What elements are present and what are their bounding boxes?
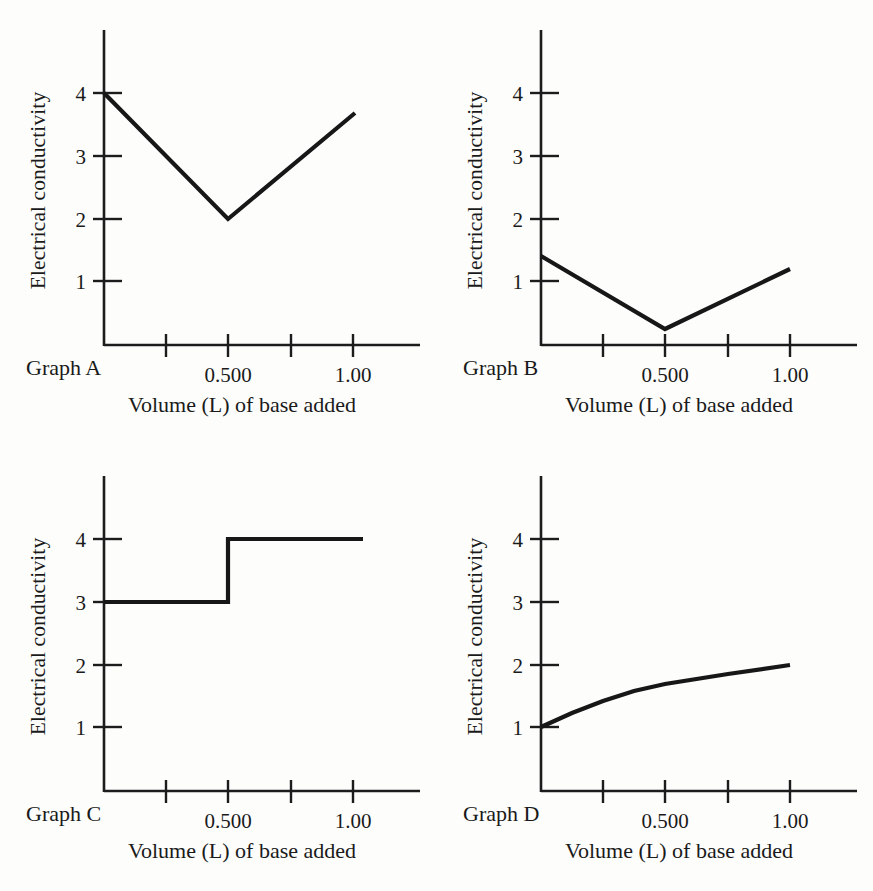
data-series-d (541, 665, 790, 727)
y-tick-label-3-c: 3 (76, 591, 87, 615)
data-series-c (104, 539, 363, 602)
y-axis-title-a: Electrical conductivity (26, 61, 51, 321)
y-ticks-c (93, 539, 122, 727)
y-tick-label-4-c: 4 (76, 528, 87, 552)
graph-panel-c: 4 3 2 1 0.500 1.00 Graph C Volume (L) of… (0, 446, 436, 891)
x-tick-label-half-b: 0.500 (641, 363, 688, 387)
y-tick-label-1-b: 1 (513, 270, 524, 294)
x-axis-title-b: Volume (L) of base added (499, 392, 859, 418)
y-ticks-d (530, 539, 559, 727)
data-series-a (104, 93, 355, 219)
y-axis-title-c: Electrical conductivity (26, 507, 51, 767)
y-tick-label-1-c: 1 (76, 716, 87, 740)
y-axis-title-b: Electrical conductivity (463, 61, 488, 321)
axes-c (104, 476, 420, 792)
y-tick-label-4-b: 4 (513, 82, 524, 106)
y-tick-label-1-a: 1 (76, 270, 87, 294)
axes-d (541, 476, 857, 792)
y-tick-label-2-a: 2 (76, 208, 87, 232)
y-tick-label-3-a: 3 (76, 145, 87, 169)
x-tick-label-half-c: 0.500 (204, 809, 251, 833)
graph-panel-b: 4 3 2 1 0.500 1.00 Graph B Volume (L) of… (437, 0, 873, 445)
graph-caption-c: Graph C (26, 801, 101, 827)
y-tick-label-4-a: 4 (76, 82, 87, 106)
y-axis-title-d: Electrical conductivity (463, 507, 488, 767)
y-ticks-a (93, 93, 122, 281)
graph-caption-b: Graph B (463, 355, 538, 381)
x-axis-title-d: Volume (L) of base added (499, 838, 859, 864)
y-tick-label-1-d: 1 (513, 716, 524, 740)
y-tick-label-3-d: 3 (513, 591, 524, 615)
data-series-b (541, 256, 790, 329)
graph-panel-a: 4 3 2 1 0.500 1.00 Graph A Volume (L) of… (0, 0, 436, 445)
y-tick-label-2-c: 2 (76, 654, 87, 678)
x-tick-label-half-d: 0.500 (641, 809, 688, 833)
axes-b (541, 30, 857, 346)
x-axis-title-c: Volume (L) of base added (62, 838, 422, 864)
y-ticks-b (530, 93, 559, 281)
graph-panel-d: 4 3 2 1 0.500 1.00 Graph D Volume (L) of… (437, 446, 873, 891)
x-tick-label-half-a: 0.500 (204, 363, 251, 387)
x-tick-label-one-d: 1.00 (772, 809, 809, 833)
x-axis-title-a: Volume (L) of base added (62, 392, 422, 418)
figure-four-graphs: 4 3 2 1 0.500 1.00 Graph A Volume (L) of… (0, 0, 873, 891)
y-tick-label-4-d: 4 (513, 528, 524, 552)
y-tick-label-3-b: 3 (513, 145, 524, 169)
graph-caption-d: Graph D (463, 801, 539, 827)
x-tick-label-one-b: 1.00 (772, 363, 809, 387)
x-tick-label-one-c: 1.00 (335, 809, 372, 833)
y-tick-label-2-b: 2 (513, 208, 524, 232)
graph-caption-a: Graph A (26, 355, 101, 381)
y-tick-label-2-d: 2 (513, 654, 524, 678)
x-tick-label-one-a: 1.00 (335, 363, 372, 387)
